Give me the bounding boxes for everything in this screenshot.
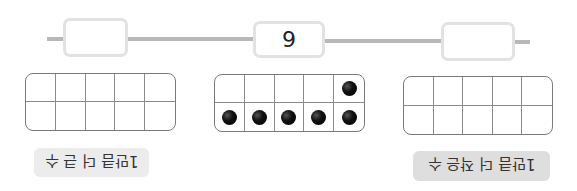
ten-frame-cell bbox=[334, 103, 364, 131]
answer-box-right[interactable] bbox=[441, 22, 515, 61]
ten-frame-cell[interactable] bbox=[86, 102, 116, 130]
counter-dot-icon bbox=[342, 81, 357, 96]
ten-frame-cell[interactable] bbox=[404, 77, 434, 106]
ten-frame-cell[interactable] bbox=[434, 106, 464, 135]
ten-frame-cell bbox=[245, 75, 275, 103]
ten-frame-cell[interactable] bbox=[434, 77, 464, 106]
ten-frame-cell[interactable] bbox=[493, 106, 523, 135]
ten-frame-cell[interactable] bbox=[404, 106, 434, 135]
ten-frame-cell bbox=[304, 103, 334, 131]
ten-frame-cell bbox=[275, 75, 305, 103]
ten-frame-cell[interactable] bbox=[463, 106, 493, 135]
ten-frame-cell[interactable] bbox=[115, 102, 145, 130]
ten-frame-cell[interactable] bbox=[56, 102, 86, 130]
ten-frame-cell[interactable] bbox=[145, 74, 175, 102]
ten-frame-cell bbox=[245, 103, 275, 131]
ten-frame-cell bbox=[275, 103, 305, 131]
ten-frame-right bbox=[403, 76, 553, 135]
label-one-less: 1만큼 더 작은 수 bbox=[413, 151, 550, 181]
answer-box-left[interactable] bbox=[63, 18, 128, 57]
ten-frame-middle bbox=[214, 74, 365, 132]
ten-frame-cell[interactable] bbox=[86, 74, 116, 102]
counter-dot-icon bbox=[281, 110, 296, 125]
ten-frame-cell[interactable] bbox=[26, 102, 56, 130]
line-segment-mid-right bbox=[323, 39, 443, 43]
ten-frame-cell[interactable] bbox=[522, 106, 552, 135]
ten-frame-cell[interactable] bbox=[115, 74, 145, 102]
ten-frame-cell[interactable] bbox=[463, 77, 493, 106]
counter-dot-icon bbox=[342, 110, 357, 125]
label-one-more: 1만큼 더 큰 수 bbox=[34, 148, 149, 177]
counter-dot-icon bbox=[252, 110, 267, 125]
counter-dot-icon bbox=[311, 110, 326, 125]
counter-dot-icon bbox=[222, 110, 237, 125]
ten-frame-cell bbox=[215, 75, 245, 103]
line-segment-mid-left bbox=[126, 37, 256, 41]
ten-frame-cell[interactable] bbox=[522, 77, 552, 106]
ten-frame-cell bbox=[304, 75, 334, 103]
ten-frame-cell bbox=[334, 75, 364, 103]
ten-frame-cell[interactable] bbox=[56, 74, 86, 102]
ten-frame-cell[interactable] bbox=[145, 102, 175, 130]
line-segment-right bbox=[513, 40, 530, 44]
given-number-box: 9 bbox=[253, 21, 325, 58]
ten-frame-cell[interactable] bbox=[493, 77, 523, 106]
ten-frame-cell[interactable] bbox=[26, 74, 56, 102]
ten-frame-left bbox=[25, 73, 176, 131]
ten-frame-cell bbox=[215, 103, 245, 131]
